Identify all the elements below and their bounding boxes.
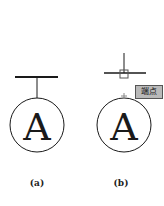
caption-b: (b) (114, 178, 129, 188)
figure-b: A (97, 53, 151, 152)
endpoint-snap-tooltip: 端点 (135, 85, 163, 99)
diagram-canvas: A A (0, 0, 164, 206)
figure-a: A (10, 77, 64, 152)
symbol-letter: A (109, 105, 138, 149)
caption-a: (a) (30, 178, 44, 188)
symbol-letter: A (22, 105, 51, 149)
